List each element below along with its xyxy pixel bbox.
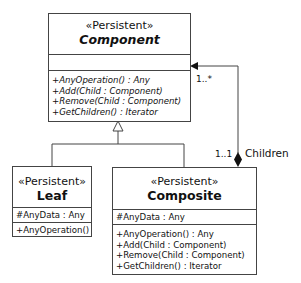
whole-multiplicity: 1..1 [215, 149, 232, 159]
leaf-operation: +AnyOperation() [16, 225, 89, 235]
leaf-attribute: #AnyData : Any [16, 210, 85, 220]
leaf-stereotype: «Persistent» [13, 175, 91, 188]
leaf-operations-divider [13, 222, 91, 223]
composite-name: Composite [113, 188, 256, 203]
leaf-attributes-divider [13, 207, 91, 208]
component-operation: +Add(Child : Component) [52, 86, 163, 96]
composite-operations-divider [113, 224, 256, 225]
component-name: Component [49, 32, 190, 47]
composite-operation: +Remove(Child : Component) [116, 250, 245, 260]
class-component[interactable]: «Persistent» Component +AnyOperation() :… [48, 13, 191, 122]
composite-attribute: #AnyData : Any [116, 212, 185, 222]
component-operation: +GetChildren() : Iterator [52, 107, 158, 117]
composite-operation: +AnyOperation() : Any [116, 229, 214, 239]
generalization-arrow-icon [113, 121, 123, 131]
class-composite[interactable]: «Persistent» Composite #AnyData : Any +A… [112, 167, 257, 275]
composition-diamond-icon [234, 152, 242, 167]
component-operation: +Remove(Child : Component) [52, 96, 181, 106]
leaf-name: Leaf [13, 188, 91, 203]
composite-operation: +GetChildren() : Iterator [116, 261, 222, 271]
composite-stereotype: «Persistent» [113, 175, 256, 188]
component-operations-divider [49, 70, 190, 71]
composite-attributes-divider [113, 209, 256, 210]
component-operation: +AnyOperation() : Any [52, 75, 150, 85]
class-leaf[interactable]: «Persistent» Leaf #AnyData : Any +AnyOpe… [12, 166, 92, 237]
component-stereotype: «Persistent» [49, 19, 190, 32]
composite-operation: +Add(Child : Component) [116, 240, 226, 250]
navigability-arrow-icon [190, 62, 198, 70]
component-attributes-divider [49, 54, 190, 55]
role-label: Children [245, 147, 289, 159]
part-multiplicity: 1..* [196, 74, 212, 84]
